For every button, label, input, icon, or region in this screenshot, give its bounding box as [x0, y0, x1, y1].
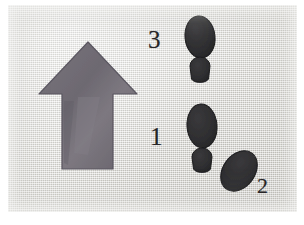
direction-arrow	[39, 42, 137, 169]
footprint-3	[183, 15, 217, 83]
footprint-direction-figure: 3 1 2	[0, 0, 304, 225]
footprint-3-heel	[190, 57, 210, 82]
footprint-label-2: 2	[257, 175, 268, 197]
footprint-1	[186, 103, 219, 172]
footprint-1-heel	[192, 148, 212, 172]
footprint-label-1: 1	[150, 124, 163, 149]
footprint-3-sole	[183, 15, 217, 60]
footprint-1-sole	[186, 103, 219, 149]
footprint-label-3: 3	[148, 27, 161, 52]
